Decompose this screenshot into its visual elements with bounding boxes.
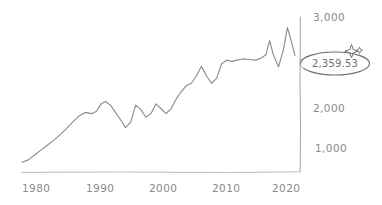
chart-page: 3,000 2,000 1,000 1980 1990 2000 2010 20…: [0, 0, 382, 205]
x-tick-label-2000: 2000: [149, 182, 177, 194]
x-tick-label-2020: 2020: [272, 182, 300, 194]
x-tick-label-1980: 1980: [22, 182, 50, 194]
callout-value-label: 2,359.53: [312, 58, 358, 69]
data-series-line: [22, 27, 295, 162]
x-tick-label-1990: 1990: [86, 182, 114, 194]
line-chart: 3,000 2,000 1,000 1980 1990 2000 2010 20…: [0, 0, 382, 205]
y-tick-label-2000: 2,000: [313, 102, 345, 114]
y-tick-label-1000: 1,000: [315, 142, 347, 154]
x-tick-label-2010: 2010: [212, 182, 240, 194]
y-tick-label-3000: 3,000: [313, 11, 345, 23]
x-axis-line: [22, 172, 300, 173]
y-axis-line: [300, 17, 301, 172]
